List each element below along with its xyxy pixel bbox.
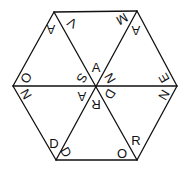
letter-center-top: A	[92, 60, 101, 75]
hexagon-diagram: AVMAASNARDONENDDOR	[0, 0, 188, 170]
letter-bottom-right-inner: R	[131, 133, 140, 148]
hexagon-svg: AVMAASNARDONENDDOR	[0, 0, 188, 170]
letter-top-left-inner: V	[64, 14, 79, 31]
letter-bottom-right-apex: O	[117, 146, 127, 161]
letter-top-right-apex: A	[131, 23, 140, 38]
letter-bottom-left-inner: D	[49, 136, 58, 151]
letter-left-lower: N	[17, 86, 35, 102]
letter-right-lower: N	[155, 87, 173, 103]
letter-center-bottom: R	[91, 97, 100, 112]
letter-top-right-inner: M	[114, 10, 131, 28]
letter-center-lower-right: D	[101, 86, 119, 102]
letter-center-lower-left: A	[77, 89, 86, 104]
letter-bottom-left-apex: D	[57, 144, 75, 160]
hexagon-outline-edge	[137, 11, 177, 86]
letter-top-left-apex: A	[46, 22, 55, 37]
hexagon-edges	[13, 11, 177, 160]
letter-left-upper: O	[17, 70, 35, 86]
